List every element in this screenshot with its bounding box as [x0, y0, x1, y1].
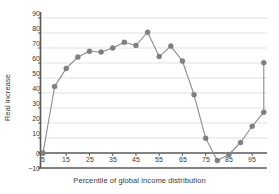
data-point — [261, 110, 266, 115]
axis-lines — [39, 12, 268, 168]
gridlines — [41, 18, 268, 138]
data-point — [75, 55, 80, 60]
data-point — [192, 92, 197, 97]
series-markers — [41, 30, 267, 163]
data-point — [122, 40, 127, 45]
data-point — [238, 140, 243, 145]
series-line — [43, 32, 264, 160]
data-point — [226, 152, 231, 157]
data-point — [41, 151, 46, 156]
data-point — [110, 46, 115, 51]
x-axis-label: Percentile of global income distribution — [0, 176, 279, 185]
data-point — [133, 43, 138, 48]
plot-area — [0, 0, 279, 194]
data-point — [215, 158, 220, 163]
data-point — [87, 49, 92, 54]
data-point — [168, 44, 173, 49]
data-point — [64, 66, 69, 71]
data-point — [145, 30, 150, 35]
chart-svg — [0, 0, 279, 194]
data-point — [261, 60, 266, 65]
data-point — [99, 50, 104, 55]
data-point — [250, 124, 255, 129]
data-point — [203, 136, 208, 141]
data-point — [52, 84, 57, 89]
chart-container: Real increase 90 80 70 60 50 40 30 20 10… — [0, 0, 279, 194]
data-point — [180, 59, 185, 64]
data-point — [157, 54, 162, 59]
